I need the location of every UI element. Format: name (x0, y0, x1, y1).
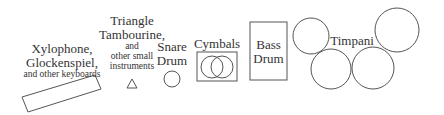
xylophone-label: Xylophone, Glockenspiel, and other keybo… (22, 42, 102, 80)
cymbals-label: Cymbals (193, 37, 241, 51)
triangle-shape (127, 79, 137, 88)
timpani-4-shape (375, 8, 419, 52)
xylophone-line1: Xylophone, (22, 42, 102, 56)
bass-line2: Drum (250, 52, 287, 66)
small-line1: Triangle (97, 14, 167, 28)
xylophone-line3: and other keyboards (22, 70, 102, 80)
snare-drum-shape (164, 71, 180, 87)
cymbal-left-shape (201, 56, 223, 78)
timpani-label: Timpani (330, 34, 374, 48)
bass-line1: Bass (250, 38, 287, 52)
snare-drum-label: Snare Drum (152, 40, 192, 67)
timpani-3-shape (352, 47, 394, 89)
snare-line2: Drum (152, 54, 192, 68)
snare-line1: Snare (152, 40, 192, 54)
timpani-2-shape (311, 49, 351, 89)
percussion-layout-diagram: Xylophone, Glockenspiel, and other keybo… (0, 0, 444, 115)
timpani-1-shape (293, 18, 329, 54)
xylophone-shape (22, 75, 101, 112)
xylophone-line2: Glockenspiel, (22, 56, 102, 70)
bass-drum-label: Bass Drum (250, 38, 287, 65)
cymbal-right-shape (211, 56, 233, 78)
